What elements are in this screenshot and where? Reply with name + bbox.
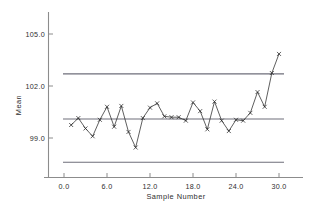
x-axis-title: Sample Number <box>146 192 205 201</box>
x-tick-label: 0.0 <box>59 182 70 191</box>
x-tick-label: 18.0 <box>185 182 200 191</box>
chart-canvas: 99.0102.0105.0 0.06.012.018.024.030.0 Me… <box>0 0 310 212</box>
y-axis-title: Mean <box>14 95 23 115</box>
x-tick-label: 24.0 <box>228 182 243 191</box>
x-tick-label: 6.0 <box>102 182 113 191</box>
y-tick-label: 99.0 <box>30 134 45 143</box>
y-tick-label: 102.0 <box>26 82 46 91</box>
x-tick-label: 30.0 <box>271 182 286 191</box>
x-tick-label: 12.0 <box>142 182 157 191</box>
control-chart: 99.0102.0105.0 0.06.012.018.024.030.0 Me… <box>0 0 310 212</box>
y-tick-label: 105.0 <box>26 30 46 39</box>
